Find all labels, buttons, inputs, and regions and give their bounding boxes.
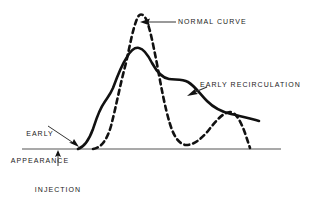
label-normal-curve: NORMAL CURVE — [178, 17, 247, 26]
label-injection-signal-line1: INJECTION — [22, 185, 94, 194]
early-appearance-curve-path — [78, 48, 259, 149]
label-early-appearance-line1: EARLY — [4, 129, 76, 138]
label-early-recirculation: EARLY RECIRCULATION — [200, 80, 301, 89]
indicator-dilution-diagram: NORMAL CURVE EARLY RECIRCULATION EARLY A… — [0, 0, 313, 198]
label-injection-signal: INJECTION SIGNAL — [22, 167, 94, 198]
label-early-appearance-line2: APPEARANCE — [4, 156, 76, 165]
